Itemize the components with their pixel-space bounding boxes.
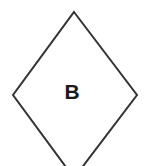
diamond-shape-svg: B: [0, 0, 144, 166]
diamond-label: B: [64, 80, 79, 103]
diagram-canvas: B: [0, 0, 144, 166]
